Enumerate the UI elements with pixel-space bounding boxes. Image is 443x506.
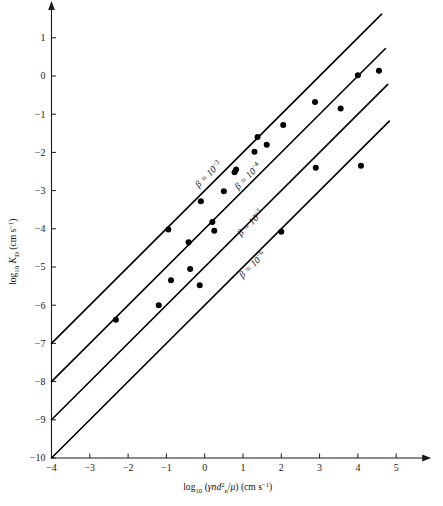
data-point xyxy=(156,302,162,308)
x-tick-label: −3 xyxy=(84,462,95,473)
y-tick-label: −3 xyxy=(35,185,46,196)
beta-label-text: β = 10−5 xyxy=(233,206,266,239)
data-point xyxy=(255,134,261,140)
data-point xyxy=(278,229,284,235)
y-tick-label: −6 xyxy=(35,300,46,311)
beta-1e-6-line xyxy=(52,121,390,458)
data-point xyxy=(312,99,318,105)
beta-1e-5-line xyxy=(52,84,388,419)
beta-1e-6-label: β = 10−6 xyxy=(235,248,268,281)
data-point xyxy=(280,122,286,128)
x-tick-label: 4 xyxy=(355,462,360,473)
y-tick-label: 0 xyxy=(41,70,46,81)
beta-label-text: β = 10−6 xyxy=(235,248,268,281)
x-axis-arrowhead xyxy=(422,455,431,462)
y-tick-label: 1 xyxy=(41,32,46,43)
data-point xyxy=(187,266,193,272)
y-tick-label: −8 xyxy=(35,376,46,387)
y-tick-label: −9 xyxy=(35,414,46,425)
data-point xyxy=(264,142,270,148)
x-tick-label: 3 xyxy=(317,462,322,473)
data-point xyxy=(198,198,204,204)
data-point xyxy=(355,72,361,78)
data-point xyxy=(211,228,217,234)
data-point xyxy=(251,149,257,155)
x-tick-label: −1 xyxy=(161,462,172,473)
data-point xyxy=(209,219,215,225)
y-axis-title: log10 KD (cm s−1) xyxy=(7,218,20,284)
y-tick-label: −4 xyxy=(35,223,46,234)
x-tick-label: −4 xyxy=(46,462,57,473)
chart-figure: −4−3−2−1012345 10−1−2−3−4−5−6−7−8−9−10 β… xyxy=(0,0,443,506)
y-axis-title-text: log10 KD (cm s−1) xyxy=(7,218,20,284)
data-point xyxy=(197,282,203,288)
data-point xyxy=(376,68,382,74)
beta-1e-4-line xyxy=(52,48,386,381)
beta-1e-3-label: β = 10−3 xyxy=(191,158,224,191)
data-point xyxy=(358,163,364,169)
beta-1e-5-label: β = 10−5 xyxy=(233,206,266,239)
data-point xyxy=(168,277,174,283)
y-axis-ticks-group: 10−1−2−3−4−5−6−7−8−9−10 xyxy=(30,32,56,463)
x-axis-title: log10 (γnd2n/μ) (cm s−1) xyxy=(183,481,272,494)
reference-lines-group xyxy=(52,14,390,458)
scatter-plot-svg: −4−3−2−1012345 10−1−2−3−4−5−6−7−8−9−10 β… xyxy=(0,0,443,506)
data-points-group xyxy=(113,68,382,323)
x-tick-label: 5 xyxy=(394,462,399,473)
x-tick-label: 1 xyxy=(241,462,246,473)
data-point xyxy=(221,188,227,194)
x-axis-ticks-group: −4−3−2−1012345 xyxy=(46,454,399,474)
y-tick-label: −2 xyxy=(35,147,46,158)
x-tick-label: 2 xyxy=(279,462,284,473)
y-axis-arrowhead xyxy=(48,1,55,10)
data-point xyxy=(113,317,119,323)
y-tick-label: −7 xyxy=(35,338,46,349)
y-tick-label: −1 xyxy=(35,109,46,120)
x-tick-label: 0 xyxy=(202,462,207,473)
x-tick-label: −2 xyxy=(123,462,134,473)
axis-titles-group: log10 (γnd2n/μ) (cm s−1)log10 KD (cm s−1… xyxy=(7,218,273,493)
data-point xyxy=(186,239,192,245)
data-point xyxy=(338,105,344,111)
data-point xyxy=(313,165,319,171)
data-point xyxy=(233,167,239,173)
y-tick-label: −5 xyxy=(35,261,46,272)
y-tick-label: −10 xyxy=(30,452,46,463)
beta-label-text: β = 10−3 xyxy=(191,158,224,191)
data-point xyxy=(165,227,171,233)
